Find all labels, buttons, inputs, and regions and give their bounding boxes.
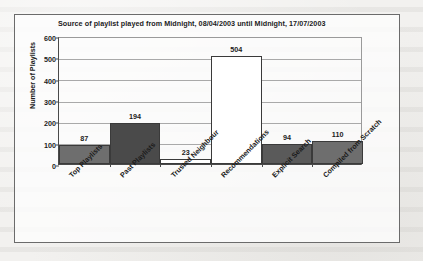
- x-axis-tick-mark: [312, 164, 313, 167]
- x-axis-tick-mark: [262, 164, 263, 167]
- y-axis-tick-label: 600: [44, 34, 56, 43]
- y-axis-title: Number of Playlists: [28, 28, 37, 124]
- x-axis-tick-mark: [110, 164, 111, 167]
- bar-value-label: 504: [211, 45, 262, 54]
- chart-frame: Source of playlist played from Midnight,…: [14, 14, 400, 243]
- plot-area: 0100200300400500600 871942350494110: [58, 37, 362, 165]
- chart-title: Source of playlist played from Midnight,…: [58, 19, 388, 28]
- y-axis-tick-label: 500: [44, 55, 56, 64]
- x-axis-tick-mark: [211, 164, 212, 167]
- y-axis-tick-label: 200: [44, 119, 56, 128]
- bars-layer: 871942350494110: [59, 38, 361, 164]
- y-axis-tick-label: 400: [44, 76, 56, 85]
- bar-value-label: 87: [59, 134, 110, 143]
- x-axis-tick-mark: [160, 164, 161, 167]
- y-axis-tick-label: 0: [52, 162, 56, 171]
- y-axis-tick-mark: [56, 166, 59, 167]
- y-axis-tick-label: 300: [44, 98, 56, 107]
- y-axis-tick-label: 100: [44, 140, 56, 149]
- bar-value-label: 194: [110, 112, 161, 121]
